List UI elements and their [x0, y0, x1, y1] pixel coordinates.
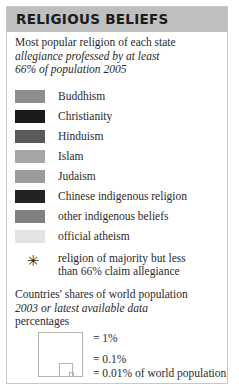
legend-row-christianity: Christianity: [7, 109, 228, 129]
legend-row-hinduism: Hinduism: [7, 129, 228, 149]
intro-line-2: allegiance professed by at least: [15, 50, 223, 64]
intro-line-3: 66% of population 2005: [15, 63, 223, 77]
color-swatch-christianity: [15, 110, 45, 123]
proportional-scale-key: = 1% = 0.1% = 0.01% of world population: [7, 325, 228, 383]
population-shares-description: Countries' shares of world population 20…: [15, 288, 225, 329]
color-swatch-hinduism: [15, 130, 45, 143]
asterisk-note-line-2: than 66% claim allegiance: [58, 265, 180, 278]
scale-label-hundredth-percent: = 0.01% of world population: [93, 367, 226, 379]
scale-label-tenth-percent: = 0.1%: [93, 353, 126, 365]
shares-line-2: 2003 or latest available data: [15, 302, 225, 316]
legend-label-chinese-indigenous-religion: Chinese indigenous religion: [58, 188, 187, 204]
color-swatch-islam: [15, 150, 45, 163]
legend-header-band: RELIGIOUS BELIEFS: [7, 7, 228, 32]
color-swatch-buddhism: [15, 90, 45, 103]
scale-label-one-percent: = 1%: [93, 332, 118, 344]
legend-row-islam: Islam: [7, 149, 228, 169]
legend-label-official-atheism: official atheism: [58, 228, 130, 244]
page-title: RELIGIOUS BELIEFS: [16, 11, 169, 27]
legend-label-hinduism: Hinduism: [58, 128, 103, 144]
color-swatch-chinese-indigenous-religion: [15, 190, 45, 203]
legend-label-buddhism: Buddhism: [58, 88, 105, 104]
shares-line-1: Countries' shares of world population: [15, 288, 225, 302]
legend-row-judaism: Judaism: [7, 169, 228, 189]
legend-label-judaism: Judaism: [58, 168, 96, 184]
legend-row-official-atheism: official atheism: [7, 229, 228, 249]
asterisk-note-line-1: religion of majority but less: [58, 252, 186, 265]
legend-label-other-indigenous-beliefs: other indigenous beliefs: [58, 208, 169, 224]
color-swatch-official-atheism: [15, 230, 45, 243]
religious-beliefs-legend-panel: RELIGIOUS BELIEFS Most popular religion …: [6, 6, 228, 384]
color-swatch-judaism: [15, 170, 45, 183]
intro-line-1: Most popular religion of each state: [15, 36, 223, 50]
asterisk-note: ✳ religion of majority but less than 66%…: [7, 252, 228, 282]
scale-square-hundredth-percent: [69, 372, 74, 377]
legend-row-other-indigenous-beliefs: other indigenous beliefs: [7, 209, 228, 229]
legend-row-chinese-indigenous-religion: Chinese indigenous religion: [7, 189, 228, 209]
legend-label-christianity: Christianity: [58, 108, 112, 124]
legend-swatch-list: Buddhism Christianity Hinduism Islam Jud…: [7, 89, 228, 249]
color-swatch-other-indigenous-beliefs: [15, 210, 45, 223]
legend-row-buddhism: Buddhism: [7, 89, 228, 109]
asterisk-icon: ✳: [24, 254, 42, 268]
legend-label-islam: Islam: [58, 148, 84, 164]
intro-description: Most popular religion of each state alle…: [15, 36, 223, 77]
